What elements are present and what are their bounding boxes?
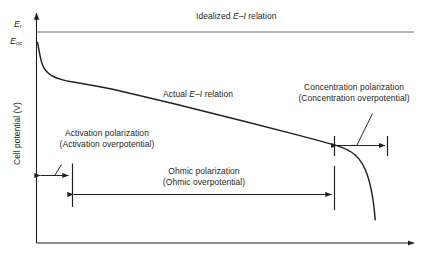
ohmic-polarization-label: Ohmic polarization (Ohmic overpotential) (142, 166, 266, 187)
actual-suffix: relation (202, 89, 233, 99)
e-opencircuit-subscript: oc (16, 40, 22, 46)
activation-leader-line (55, 165, 62, 176)
figure-canvas: Er Eoc Cell potential (V) Idealized E–I … (0, 0, 426, 257)
activation-label-line1: Activation polarization (47, 128, 167, 139)
actual-prefix: Actual (163, 89, 189, 99)
activation-label-line2: (Activation overpotential) (47, 139, 167, 150)
activation-polarization-label: Activation polarization (Activation over… (47, 128, 167, 149)
idealized-suffix: relation (246, 11, 277, 21)
y-axis-title: Cell potential (V) (12, 102, 22, 165)
e-opencircuit-label: Eoc (10, 36, 22, 46)
concentration-polarization-label: Concentration polarization (Concentratio… (284, 82, 424, 103)
concentration-leader-line (357, 114, 373, 146)
actual-relation-label: Actual E–I relation (163, 89, 233, 100)
ohmic-label-line1: Ohmic polarization (142, 166, 266, 177)
e-reversible-label: Er (14, 19, 22, 29)
idealized-relation-label: Idealized E–I relation (196, 11, 277, 22)
e-reversible-subscript: r (20, 23, 22, 29)
concentration-label-line1: Concentration polarization (284, 82, 424, 93)
concentration-label-line2: (Concentration overpotential) (284, 93, 424, 104)
ohmic-label-line2: (Ohmic overpotential) (142, 177, 266, 188)
idealized-prefix: Idealized (196, 11, 233, 21)
